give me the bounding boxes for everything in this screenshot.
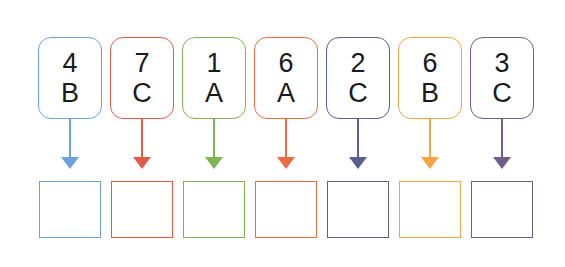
- answer-box[interactable]: [471, 181, 533, 238]
- column-7: 3 C: [470, 0, 536, 267]
- arrow-stem: [501, 119, 503, 159]
- code-card: 7 C: [110, 37, 174, 119]
- card-number: 1: [206, 48, 221, 78]
- arrow-down-icon: [349, 157, 367, 169]
- column-3: 1 A: [182, 0, 248, 267]
- code-card: 6 A: [254, 37, 318, 119]
- arrow-stem: [141, 119, 143, 159]
- card-letter: B: [421, 78, 439, 108]
- answer-box[interactable]: [111, 181, 173, 238]
- answer-box[interactable]: [399, 181, 461, 238]
- arrow-down-icon: [277, 157, 295, 169]
- card-letter: C: [132, 78, 152, 108]
- arrow-stem: [285, 119, 287, 159]
- card-letter: C: [492, 78, 512, 108]
- column-5: 2 C: [326, 0, 392, 267]
- answer-box[interactable]: [183, 181, 245, 238]
- arrow-stem: [429, 119, 431, 159]
- code-card: 2 C: [326, 37, 390, 119]
- column-1: 4 B: [38, 0, 104, 267]
- code-card: 4 B: [38, 37, 102, 119]
- card-number: 6: [422, 48, 437, 78]
- card-number: 2: [350, 48, 365, 78]
- arrow-down-icon: [493, 157, 511, 169]
- column-4: 6 A: [254, 0, 320, 267]
- code-card: 3 C: [470, 37, 534, 119]
- answer-box[interactable]: [39, 181, 101, 238]
- card-number: 6: [278, 48, 293, 78]
- arrow-down-icon: [61, 157, 79, 169]
- code-card: 6 B: [398, 37, 462, 119]
- arrow-down-icon: [133, 157, 151, 169]
- arrow-down-icon: [205, 157, 223, 169]
- arrow-down-icon: [421, 157, 439, 169]
- card-number: 3: [494, 48, 509, 78]
- arrow-stem: [213, 119, 215, 159]
- arrow-stem: [69, 119, 71, 159]
- card-number: 7: [134, 48, 149, 78]
- card-number: 4: [62, 48, 77, 78]
- code-card: 1 A: [182, 37, 246, 119]
- card-letter: C: [348, 78, 368, 108]
- card-letter: A: [277, 78, 295, 108]
- card-letter: A: [205, 78, 223, 108]
- answer-box[interactable]: [327, 181, 389, 238]
- arrow-stem: [357, 119, 359, 159]
- answer-box[interactable]: [255, 181, 317, 238]
- column-2: 7 C: [110, 0, 176, 267]
- column-6: 6 B: [398, 0, 464, 267]
- card-letter: B: [61, 78, 79, 108]
